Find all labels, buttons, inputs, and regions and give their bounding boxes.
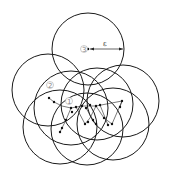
data-point: [92, 119, 94, 121]
data-point: [95, 123, 97, 125]
data-point: [70, 107, 72, 109]
data-point: [71, 111, 73, 113]
data-point: [87, 121, 89, 123]
data-point: [119, 106, 121, 108]
data-point: [59, 131, 61, 133]
data-point: [99, 104, 101, 106]
diagram-canvas: ε 3 2 1: [0, 0, 170, 180]
svg-text:1: 1: [67, 98, 71, 106]
data-point: [61, 127, 63, 129]
point-2-label: 2: [47, 82, 54, 90]
data-point: [53, 101, 55, 103]
data-point: [84, 123, 86, 125]
arrow-right-icon: [119, 48, 123, 51]
data-point: [85, 107, 87, 109]
epsilon-neighborhoods: [12, 13, 159, 165]
data-point: [121, 100, 123, 102]
point-3-label: 3: [81, 46, 88, 54]
point-1-label: 1: [66, 98, 73, 106]
data-point: [48, 97, 50, 99]
data-point: [107, 124, 109, 126]
connection-edges: [49, 98, 122, 132]
data-point: [95, 105, 97, 107]
data-point: [65, 119, 67, 121]
arrow-left-icon: [90, 48, 94, 51]
data-point: [103, 117, 105, 119]
svg-text:3: 3: [82, 46, 86, 54]
data-point: [89, 104, 91, 106]
radius-indicator: ε: [87, 40, 123, 51]
data-point: [111, 123, 113, 125]
data-points: [48, 97, 123, 133]
epsilon-label: ε: [103, 40, 107, 48]
svg-text:2: 2: [48, 82, 52, 90]
data-point: [75, 106, 77, 108]
data-point: [81, 105, 83, 107]
neighborhood-circle-2: [12, 54, 84, 126]
